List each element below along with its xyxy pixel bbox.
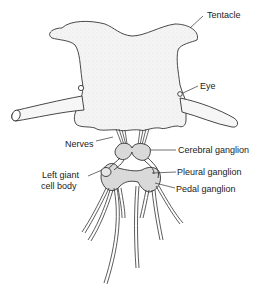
label-cerebral-ganglion: Cerebral ganglion bbox=[178, 145, 249, 155]
label-tentacle: Tentacle bbox=[207, 10, 241, 20]
label-pedal-ganglion: Pedal ganglion bbox=[176, 184, 236, 194]
label-eye: Eye bbox=[200, 81, 216, 91]
peripheral-nerves bbox=[82, 186, 183, 284]
right-eye-icon bbox=[178, 92, 183, 97]
aplysia-diagram: Tentacle Eye Nerves Cerebral ganglion Le… bbox=[0, 0, 259, 298]
label-left-giant-cell-line2: cell body bbox=[41, 181, 77, 191]
label-left-giant-cell-line1: Left giant bbox=[42, 170, 79, 180]
label-pleural-ganglion: Pleural ganglion bbox=[177, 167, 242, 177]
left-tentacle bbox=[10, 96, 84, 122]
right-tentacle bbox=[180, 98, 238, 127]
left-giant-cell-body bbox=[101, 168, 111, 177]
label-nerves: Nerves bbox=[65, 139, 94, 149]
left-eye-icon bbox=[78, 85, 83, 90]
head-body bbox=[50, 21, 198, 130]
